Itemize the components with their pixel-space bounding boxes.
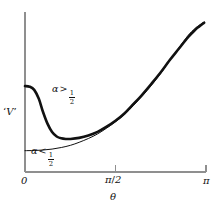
y-axis-label-close-quote: ’ bbox=[13, 106, 16, 117]
annotation-alpha-less-half: α<12 bbox=[31, 146, 54, 168]
annotation-relation-upper: > bbox=[58, 83, 68, 94]
annotation-relation-lower: < bbox=[37, 145, 47, 156]
fraction-denominator: 2 bbox=[48, 161, 54, 168]
annotation-fraction-upper: 12 bbox=[69, 90, 75, 106]
curve-alpha-greater-half bbox=[25, 23, 204, 139]
x-tick-label-pi: π bbox=[203, 176, 210, 186]
fraction-denominator: 2 bbox=[69, 99, 75, 106]
fraction-numerator: 1 bbox=[48, 152, 54, 159]
fraction-numerator: 1 bbox=[69, 90, 75, 97]
annotation-alpha-greater-half: α>12 bbox=[52, 84, 75, 106]
annotation-fraction-lower: 12 bbox=[48, 152, 54, 168]
x-tick-label-0: 0 bbox=[21, 176, 27, 186]
figure-container: ‘V’ 0 π/2 π θ α>12 α<12 bbox=[0, 0, 223, 213]
x-axis-title: θ bbox=[110, 192, 116, 202]
x-tick-label-pi-over-2: π/2 bbox=[105, 175, 121, 185]
y-axis-label: ‘V’ bbox=[3, 107, 17, 117]
pi-over-2-numerator: π bbox=[105, 174, 112, 185]
pi-over-2-denominator: 2 bbox=[115, 174, 121, 185]
